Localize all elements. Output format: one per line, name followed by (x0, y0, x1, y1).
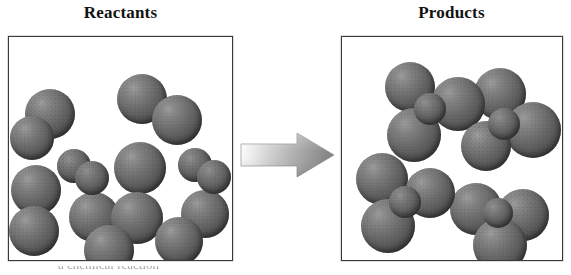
figure-caption: a chemical reaction (58, 266, 159, 273)
products-box (341, 36, 563, 261)
products-molecule-layer (342, 37, 562, 260)
atom-sphere (155, 217, 203, 261)
atom-sphere (414, 93, 446, 125)
atom-sphere (483, 198, 513, 228)
figure-caption-strip: a chemical reaction (0, 266, 571, 275)
atom-sphere (9, 206, 59, 256)
atom-sphere (389, 186, 421, 218)
reaction-arrow-icon (240, 131, 335, 179)
reactants-molecule-layer (9, 37, 232, 260)
reactants-panel-title: Reactants (8, 3, 233, 23)
atom-sphere (197, 160, 231, 194)
reactants-box (8, 36, 233, 261)
products-panel-title: Products (341, 3, 562, 23)
atom-sphere (488, 108, 520, 140)
atom-sphere (10, 116, 54, 160)
atom-sphere (152, 95, 202, 145)
atom-sphere (75, 161, 109, 195)
atom-sphere (114, 142, 166, 194)
